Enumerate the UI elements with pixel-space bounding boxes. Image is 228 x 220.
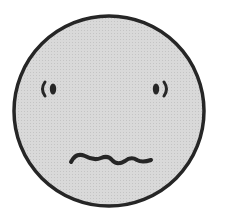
right-eye-pupil [153,84,159,95]
face-circle [14,16,204,206]
left-eye-pupil [50,84,56,95]
illustration-canvas [0,0,228,220]
nervous-face-illustration [0,0,228,220]
